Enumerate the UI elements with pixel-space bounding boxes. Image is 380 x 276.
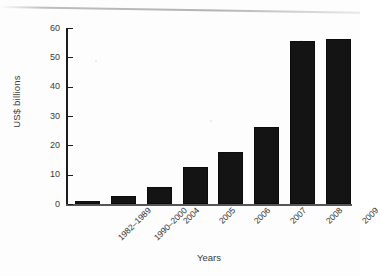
bar <box>218 152 243 204</box>
bar <box>75 201 100 204</box>
y-tick-label: 0 <box>55 200 60 209</box>
x-tick-label: 1982–1989 <box>116 206 152 242</box>
bar <box>326 39 351 204</box>
y-tick-label: 10 <box>50 170 60 179</box>
bar <box>290 41 315 204</box>
y-tick-label: 20 <box>50 141 60 150</box>
y-tick-label: 30 <box>50 112 60 121</box>
x-axis-tick-labels: 1982–1989 1990–2000 2004 2005 2006 2007 … <box>66 206 352 252</box>
x-tick-label: 1990–2000 <box>152 206 188 242</box>
x-tick-label: 2005 <box>218 206 238 226</box>
bar <box>254 127 279 204</box>
bar <box>183 167 208 204</box>
x-tick-label: 2007 <box>289 206 309 226</box>
bar <box>147 187 172 204</box>
x-tick-label: 2009 <box>361 206 380 226</box>
scan-artifact-line <box>0 6 360 14</box>
plot-area <box>66 28 352 204</box>
y-tick-label: 40 <box>50 82 60 91</box>
y-tick-label: 60 <box>50 24 60 33</box>
x-tick-label: 2008 <box>325 206 345 226</box>
y-axis-tick-labels: 60 50 40 30 20 10 0 <box>0 28 60 204</box>
bar-series <box>66 28 352 204</box>
x-axis-title: Years <box>66 252 352 263</box>
x-tick-label: 2006 <box>253 206 273 226</box>
y-axis-tick <box>68 204 73 205</box>
y-tick-label: 50 <box>50 53 60 62</box>
bar <box>111 196 136 204</box>
